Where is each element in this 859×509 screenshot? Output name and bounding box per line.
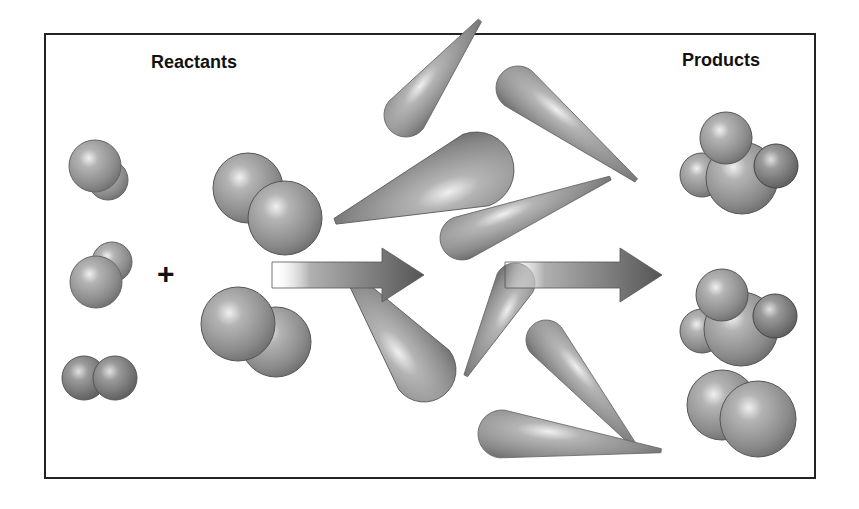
reactant-molecule-4 [213,153,322,255]
moving-molecule-1 [375,7,497,146]
reactant-molecule-1 [69,140,128,200]
plus-sign: + [157,259,175,289]
reactants-label: Reactants [151,52,237,73]
reactant-molecule-2 [70,242,132,308]
product-molecule-2 [680,269,797,366]
moving-molecule-8 [476,408,664,475]
products-label: Products [682,50,760,71]
product-molecule-1 [680,112,798,214]
reactant-molecule-5 [201,287,311,377]
product-molecule-3 [687,370,796,457]
reaction-arrow-1 [272,248,424,302]
reaction-illustration [0,0,859,509]
reactant-molecule-3 [62,356,137,400]
